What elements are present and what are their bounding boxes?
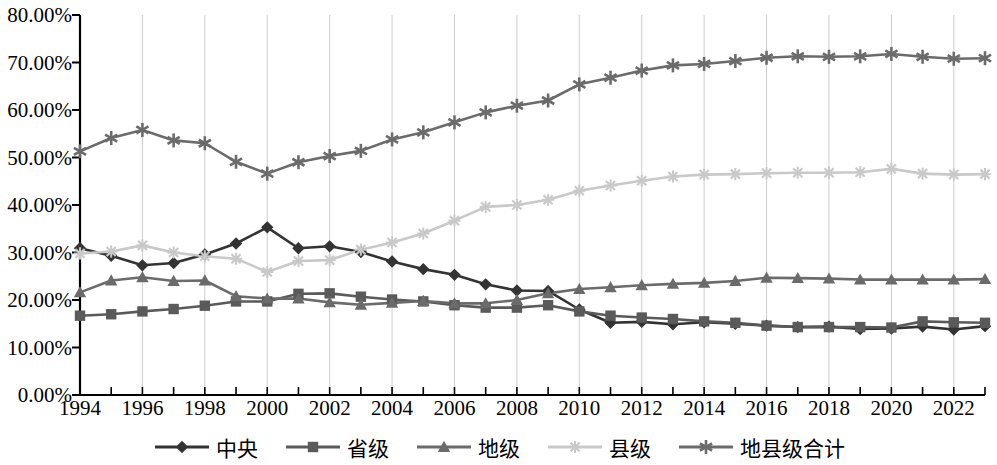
x-axis-tick-labels: 1994199619982000200220042006200820102012… xyxy=(0,396,997,426)
legend-label: 地级 xyxy=(478,432,520,462)
data-point-square-icon xyxy=(75,310,85,320)
data-point-square-icon xyxy=(949,317,959,327)
data-point-x-star-icon xyxy=(729,168,741,180)
data-point-diamond-icon xyxy=(323,240,335,252)
data-point-square-icon xyxy=(855,322,865,332)
data-point-x-star-icon xyxy=(948,169,960,181)
x-axis-tick-label: 2006 xyxy=(433,396,475,421)
data-point-square-icon xyxy=(543,300,553,310)
data-point-square-icon xyxy=(699,316,709,326)
data-point-x-star-icon xyxy=(885,163,897,175)
data-point-x-star-icon xyxy=(355,244,367,256)
data-point-square-icon xyxy=(605,310,615,320)
x-axis-tick-label: 2018 xyxy=(808,396,850,421)
data-point-square-icon xyxy=(637,312,647,322)
legend-item-1[interactable]: 省级 xyxy=(284,432,389,462)
data-point-x-star-icon xyxy=(792,167,804,179)
data-point-x-star-icon xyxy=(417,227,429,239)
data-point-x-star-icon xyxy=(261,266,273,278)
data-point-square-icon xyxy=(574,306,584,316)
data-point-x-star-icon xyxy=(511,199,523,211)
data-point-square-icon xyxy=(668,314,678,324)
data-point-x-star-icon xyxy=(168,246,180,258)
series-line-4 xyxy=(80,54,985,174)
legend-marker-square-icon xyxy=(284,437,342,457)
legend-label: 县级 xyxy=(609,432,651,462)
data-point-square-icon xyxy=(168,304,178,314)
data-point-x-star-icon xyxy=(667,170,679,182)
data-point-square-icon xyxy=(200,301,210,311)
legend-label: 中央 xyxy=(216,432,258,462)
x-axis-tick-label: 1994 xyxy=(59,396,101,421)
data-point-asterisk-icon xyxy=(230,155,242,169)
data-point-x-star-icon xyxy=(542,194,554,206)
data-point-square-icon xyxy=(761,320,771,330)
data-point-square-icon xyxy=(793,322,803,332)
data-point-diamond-icon xyxy=(448,269,460,281)
legend-label: 省级 xyxy=(347,432,389,462)
legend-item-0[interactable]: 中央 xyxy=(153,432,258,462)
x-axis-tick-label: 1996 xyxy=(121,396,163,421)
data-point-x-star-icon xyxy=(230,253,242,265)
data-point-x-star-icon xyxy=(448,215,460,227)
data-point-x-star-icon xyxy=(854,166,866,178)
x-axis-tick-label: 2000 xyxy=(246,396,288,421)
data-point-x-star-icon xyxy=(760,167,772,179)
data-point-x-star-icon xyxy=(199,250,211,262)
data-point-square-icon xyxy=(307,441,317,451)
data-point-diamond-icon xyxy=(417,263,429,275)
data-point-square-icon xyxy=(824,322,834,332)
x-axis-tick-label: 2020 xyxy=(870,396,912,421)
data-point-diamond-icon xyxy=(167,257,179,269)
line-chart-plot xyxy=(0,0,997,425)
x-axis-tick-label: 2004 xyxy=(371,396,413,421)
data-point-x-star-icon xyxy=(573,185,585,197)
data-point-square-icon xyxy=(730,318,740,328)
data-point-x-star-icon xyxy=(105,245,117,257)
data-point-x-star-icon xyxy=(979,168,991,180)
data-point-x-star-icon xyxy=(292,255,304,267)
data-point-x-star-icon xyxy=(480,201,492,213)
data-point-x-star-icon xyxy=(698,169,710,181)
legend-marker-diamond-icon xyxy=(153,437,211,457)
data-point-x-star-icon xyxy=(636,175,648,187)
x-axis-tick-label: 2008 xyxy=(496,396,538,421)
data-point-diamond-icon xyxy=(479,278,491,290)
data-point-square-icon xyxy=(137,306,147,316)
data-point-diamond-icon xyxy=(175,440,187,452)
data-point-x-star-icon xyxy=(604,179,616,191)
x-axis-tick-label: 2010 xyxy=(558,396,600,421)
legend-item-3[interactable]: 县级 xyxy=(546,432,651,462)
data-point-x-star-icon xyxy=(917,168,929,180)
legend-marker-triangle-icon xyxy=(415,437,473,457)
legend-marker-x-star-icon xyxy=(546,437,604,457)
series-line-1 xyxy=(80,293,985,327)
data-point-asterisk-icon xyxy=(74,144,86,158)
data-point-square-icon xyxy=(980,318,990,328)
x-axis-tick-label: 2002 xyxy=(309,396,351,421)
chart-legend: 中央省级地级县级地县级合计 xyxy=(0,428,997,465)
x-axis-tick-label: 1998 xyxy=(184,396,226,421)
data-point-diamond-icon xyxy=(230,237,242,249)
x-axis-tick-label: 2012 xyxy=(621,396,663,421)
data-point-diamond-icon xyxy=(386,255,398,267)
data-point-x-star-icon xyxy=(136,239,148,251)
x-axis-tick-label: 2022 xyxy=(933,396,975,421)
data-point-square-icon xyxy=(917,316,927,326)
x-axis-tick-label: 2016 xyxy=(746,396,788,421)
data-point-x-star-icon xyxy=(74,247,86,259)
x-axis-tick-label: 2014 xyxy=(683,396,725,421)
data-point-asterisk-icon xyxy=(261,167,273,181)
data-point-x-star-icon xyxy=(324,254,336,266)
legend-label: 地县级合计 xyxy=(740,432,845,462)
legend-item-2[interactable]: 地级 xyxy=(415,432,520,462)
data-point-x-star-icon xyxy=(823,167,835,179)
chart-root: 0.00%10.00%20.00%30.00%40.00%50.00%60.00… xyxy=(0,0,997,465)
data-point-diamond-icon xyxy=(136,259,148,271)
data-point-square-icon xyxy=(886,322,896,332)
series-line-3 xyxy=(80,169,985,272)
legend-marker-asterisk-icon xyxy=(677,437,735,457)
data-point-square-icon xyxy=(106,309,116,319)
legend-item-4[interactable]: 地县级合计 xyxy=(677,432,845,462)
data-point-x-star-icon xyxy=(568,440,580,452)
